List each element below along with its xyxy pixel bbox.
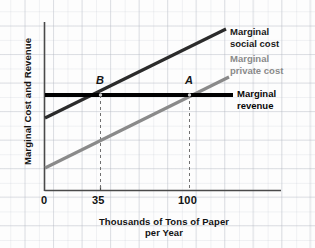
point-label-b: B: [96, 74, 104, 86]
x-axis-title-line1: Thousands of Tons of Paper: [69, 217, 259, 227]
series-line-marginal-private-cost: [45, 77, 229, 168]
legend-label-marginal-social-cost: Marginal social cost: [230, 26, 279, 49]
series-line-marginal-social-cost: [45, 29, 226, 118]
x-tick-label-100: 100: [178, 194, 197, 206]
legend-label-marginal-revenue: Marginal revenue: [237, 88, 276, 111]
externality-chart: B A Marginal social cost Marginal privat…: [0, 0, 315, 248]
x-tick-label-0: 0: [41, 194, 47, 206]
point-marker-a: [188, 93, 191, 96]
point-label-a: A: [185, 74, 193, 86]
legend-label-marginal-private-cost: Marginal private cost: [230, 53, 283, 76]
y-axis-title: Marginal Cost and Revenue: [22, 22, 33, 182]
x-tick-label-35: 35: [92, 194, 105, 206]
point-marker-b: [99, 93, 102, 96]
x-axis-title-line2: per Year: [69, 228, 259, 238]
